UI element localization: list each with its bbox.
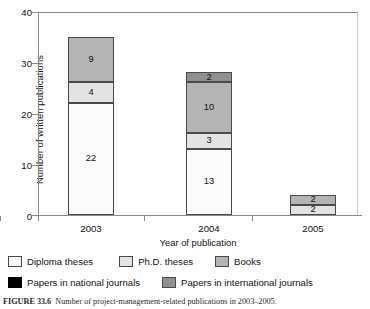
bar-segment-label: 9 (88, 55, 93, 64)
bar-2005-books[interactable]: 2 (290, 195, 336, 205)
bar-2004-diploma-theses[interactable]: 13 (186, 149, 232, 215)
bar-segment-label: 3 (206, 136, 211, 145)
legend-item-books[interactable]: Books (215, 256, 261, 267)
figure-container: Number of written publications 40 30 20 … (0, 0, 370, 309)
legend-label: Papers in national journals (27, 277, 140, 288)
bar-2004-phd-theses[interactable]: 3 (186, 133, 232, 148)
bar-segment-label: 13 (204, 177, 214, 186)
bar-2003-books[interactable]: 9 (68, 37, 114, 83)
bar-segment-label: 10 (204, 103, 214, 112)
x-tick-label-2004: 2004 (179, 223, 239, 234)
bars-layer: 22 4 9 13 3 10 2 2 2 (0, 0, 370, 216)
legend-label: Papers in international journals (181, 277, 313, 288)
legend-item-papers-international[interactable]: Papers in international journals (162, 277, 313, 288)
legend-swatch-icon (8, 277, 22, 288)
x-tick-mark-sep-1 (144, 216, 145, 221)
figure-caption: FIGURE 33.6 Number of project-management… (3, 297, 367, 306)
bar-2004-papers-international[interactable]: 2 (186, 72, 232, 82)
bar-segment-label: 2 (310, 205, 315, 214)
bar-2003-phd-theses[interactable]: 4 (68, 82, 114, 102)
bar-segment-label: 2 (206, 73, 211, 82)
legend-swatch-icon (162, 277, 176, 288)
legend-item-diploma-theses[interactable]: Diploma theses (8, 256, 93, 267)
x-tick-mark-sep-2 (252, 216, 253, 221)
bar-segment-label: 4 (88, 88, 93, 97)
bar-segment-label: 22 (86, 154, 96, 163)
legend-row-1: Diploma theses Ph.D. theses Books (0, 251, 370, 272)
x-axis-title: Year of publication (38, 237, 358, 248)
legend-label: Books (234, 256, 261, 267)
legend-swatch-icon (8, 256, 22, 267)
legend-label: Diploma theses (27, 256, 93, 267)
x-tick-mark-left (38, 216, 39, 221)
legend-item-papers-national[interactable]: Papers in national journals (8, 277, 140, 288)
bar-2005-phd-theses[interactable]: 2 (290, 205, 336, 215)
figure-caption-text: Number of project-management-related pub… (55, 297, 276, 306)
legend-label: Ph.D. theses (138, 256, 193, 267)
bar-segment-label: 2 (310, 195, 315, 204)
x-tick-mark-1 (0, 216, 1, 221)
legend-item-phd-theses[interactable]: Ph.D. theses (119, 256, 193, 267)
chart-legend: Diploma theses Ph.D. theses Books Papers… (0, 251, 370, 293)
x-tick-label-2005: 2005 (283, 223, 343, 234)
legend-swatch-icon (215, 256, 229, 267)
figure-caption-number: FIGURE 33.6 (3, 297, 51, 306)
x-tick-label-2003: 2003 (61, 223, 121, 234)
bar-2004-books[interactable]: 10 (186, 82, 232, 133)
legend-row-2: Papers in national journals Papers in in… (0, 272, 370, 293)
legend-swatch-icon (119, 256, 133, 267)
bar-2003-diploma-theses[interactable]: 22 (68, 103, 114, 215)
